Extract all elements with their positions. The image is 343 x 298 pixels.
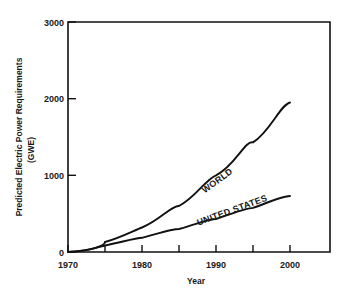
x-tick-label-1970: 1970: [58, 260, 78, 270]
y-tick-label-1000: 1000: [44, 171, 64, 181]
y-tick-label-2000: 2000: [44, 94, 64, 104]
x-tick-label-2000: 2000: [280, 260, 300, 270]
chart-background: [0, 0, 343, 298]
y-axis-title-line1: Predicted Electric Power Requirements: [14, 57, 24, 216]
x-tick-label-1990: 1990: [206, 260, 226, 270]
power-requirements-line-chart: 3000 2000 1000 0 1970 1980 1990 2000 Yea…: [0, 0, 343, 298]
y-axis-title-line2: (GWE): [26, 137, 36, 163]
x-axis-title: Year: [187, 276, 206, 286]
y-tick-label-0: 0: [59, 248, 64, 258]
y-tick-label-3000: 3000: [44, 18, 64, 28]
chart-figure: 3000 2000 1000 0 1970 1980 1990 2000 Yea…: [0, 0, 343, 298]
x-tick-label-1980: 1980: [132, 260, 152, 270]
